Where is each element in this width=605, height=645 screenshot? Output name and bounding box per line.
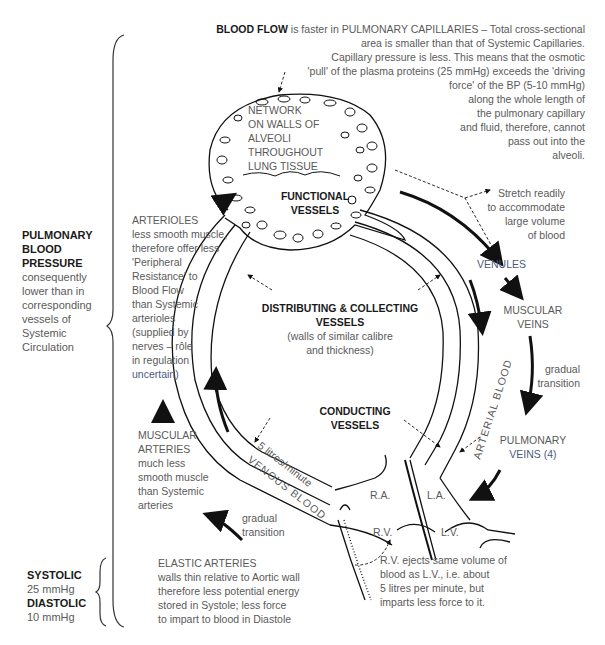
stretch-note: Stretch readilyto accommodate large volu… xyxy=(487,186,565,242)
pulmonary-pressure-bracket xyxy=(107,35,124,627)
gradual-transition-left: gradualtransition xyxy=(242,511,285,539)
pulmonary-veins-label: PULMONARYVEINS (4) xyxy=(488,433,578,461)
label-lv: L.V. xyxy=(441,526,459,538)
arterioles-title: ARTERIOLES xyxy=(132,213,227,227)
arterial-flow-arrow xyxy=(470,280,482,330)
elastic-to-muscular-arteries-arrow xyxy=(208,515,242,540)
distributing-collecting-label: DISTRIBUTING & COLLECTING VESSELS (walls… xyxy=(240,301,440,357)
gradual-transition-right: gradualtransition xyxy=(537,362,580,390)
diastolic-value: 10 mmHg xyxy=(27,610,86,624)
muscular-veins-label: MUSCULARVEINS xyxy=(493,303,573,331)
capillary-to-venules-arrow xyxy=(400,192,500,262)
label-rv: R.V. xyxy=(373,526,392,538)
arterioles-note: ARTERIOLES less smooth muscle,therefore … xyxy=(132,213,227,381)
label-la: L.A. xyxy=(427,489,446,501)
pulmonary-veins-to-la-arrow xyxy=(474,470,500,498)
systolic-value: 25 mmHg xyxy=(27,582,86,596)
pulmonary-bp-note: PULMONARY BLOOD PRESSURE consequentlylow… xyxy=(22,228,92,354)
network-label: NETWORKON WALLS OF ALVEOLITHROUGHOUT LUN… xyxy=(248,103,323,173)
diastolic-label: DIASTOLIC xyxy=(27,596,86,610)
blood-flow-heading: BLOOD FLOW xyxy=(216,23,288,35)
elastic-arteries-title: ELASTIC ARTERIES xyxy=(158,556,300,570)
conducting-vessels-label: CONDUCTINGVESSELS xyxy=(305,404,405,432)
pressure-values: SYSTOLIC 25 mmHg DIASTOLIC 10 mmHg xyxy=(27,568,86,624)
muscular-veins-to-pulmonary-veins-arrow xyxy=(527,336,532,410)
systolic-label: SYSTOLIC xyxy=(27,568,86,582)
venules-to-muscular-veins-arrow xyxy=(505,278,520,296)
label-ra: R.A. xyxy=(370,489,390,501)
venules-label: VENULES xyxy=(477,257,526,271)
muscular-arteries-note: MUSCULAR ARTERIES much less smooth muscl… xyxy=(138,428,209,512)
functional-vessels-label: FUNCTIONALVESSELS xyxy=(270,189,360,217)
rv-ejection-note: R.V. ejects same volume ofblood as L.V.,… xyxy=(380,553,507,609)
elastic-arteries-note: ELASTIC ARTERIES walls thin relative to … xyxy=(158,556,300,626)
venous-flow-arrow xyxy=(216,372,228,432)
systolic-diastolic-bracket xyxy=(96,558,106,626)
